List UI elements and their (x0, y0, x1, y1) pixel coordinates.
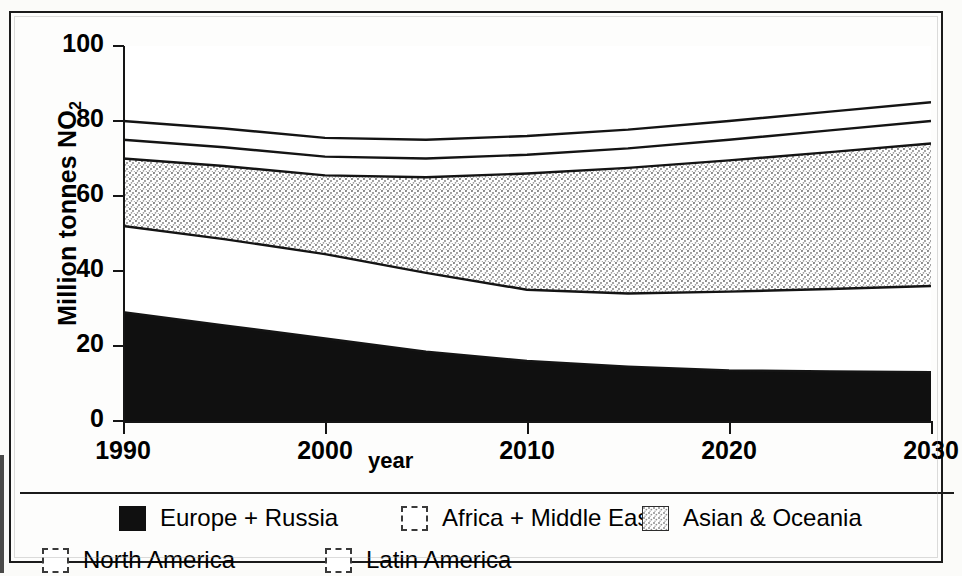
y-tick-80 (113, 120, 124, 122)
legend-label-africa-middle-east: Africa + Middle East (442, 504, 656, 532)
x-tick-2000 (325, 423, 327, 434)
x-tick-2010 (527, 423, 529, 434)
y-tick-label-100: 100 (34, 29, 104, 58)
scan-edge-artifact (0, 455, 4, 573)
legend-swatch-europe-russia (119, 506, 146, 531)
y-tick-0 (113, 420, 124, 422)
figure-frame: Million tonnes NO2 (9, 11, 943, 563)
legend-item-north-america[interactable]: North America (42, 546, 235, 574)
legend-row-1: Europe + RussiaAfrica + Middle EastAsian… (20, 504, 954, 540)
stacked-area-series-group (123, 46, 931, 421)
plot-surface (123, 46, 931, 421)
legend-label-north-america: North America (83, 546, 235, 574)
y-tick-100 (113, 45, 124, 47)
x-tick-label-2010: 2010 (467, 436, 587, 465)
chart-area: Million tonnes NO2 (20, 24, 954, 494)
legend-item-asian-oceania[interactable]: Asian & Oceania (642, 504, 862, 532)
y-tick-60 (113, 195, 124, 197)
y-tick-label-20: 20 (34, 329, 104, 358)
x-tick-label-2020: 2020 (669, 436, 789, 465)
legend-label-latin-america: Latin America (366, 546, 511, 574)
plot-region (123, 46, 931, 421)
x-tick-1990 (123, 423, 125, 434)
x-axis-label: year (368, 448, 413, 474)
legend-swatch-asian-oceania (642, 506, 669, 531)
y-tick-40 (113, 270, 124, 272)
x-tick-label-1990: 1990 (63, 436, 183, 465)
y-tick-label-0: 0 (34, 404, 104, 433)
y-axis-label-text: Million tonnes NO (53, 110, 81, 326)
x-tick-2030 (931, 423, 933, 434)
y-tick-label-40: 40 (34, 254, 104, 283)
legend-label-europe-russia: Europe + Russia (160, 504, 338, 532)
y-tick-20 (113, 345, 124, 347)
chart-legend: Europe + RussiaAfrica + Middle EastAsian… (20, 496, 954, 576)
legend-swatch-africa-middle-east (401, 506, 428, 531)
x-tick-label-2030: 2030 (871, 436, 962, 465)
legend-label-asian-oceania: Asian & Oceania (683, 504, 862, 532)
legend-item-europe-russia[interactable]: Europe + Russia (119, 504, 338, 532)
scanned-page: Million tonnes NO2 (0, 0, 962, 576)
y-axis-line (123, 46, 125, 423)
legend-swatch-north-america (42, 548, 69, 573)
legend-row-2: North AmericaLatin America (20, 546, 954, 576)
legend-swatch-latin-america (325, 548, 352, 573)
y-tick-label-80: 80 (34, 104, 104, 133)
x-tick-label-2000: 2000 (265, 436, 385, 465)
y-tick-label-60: 60 (34, 179, 104, 208)
x-tick-2020 (729, 423, 731, 434)
legend-item-latin-america[interactable]: Latin America (325, 546, 511, 574)
legend-item-africa-middle-east[interactable]: Africa + Middle East (401, 504, 656, 532)
